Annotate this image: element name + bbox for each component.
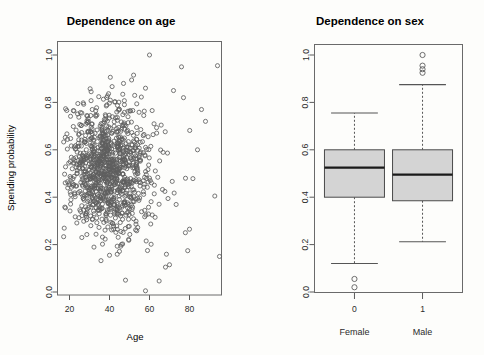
box-plot-sex: Dependence on sex 0.00.20.40.60.81.0 01 … (242, 0, 484, 355)
y-tick-label: 0.6 (44, 144, 54, 156)
scatter-point (159, 123, 163, 127)
scatter-point (174, 202, 178, 206)
scatter-point (147, 156, 151, 160)
boxes-sex (324, 52, 452, 289)
scatter-point (94, 232, 98, 236)
scatter-point (215, 64, 219, 68)
group-label: Male (413, 327, 433, 337)
scatter-point (135, 102, 139, 106)
scatter-point (143, 289, 147, 293)
scatter-point (62, 226, 66, 230)
x-tick-label: 80 (185, 304, 195, 314)
scatter-point (76, 101, 80, 105)
scatter-point (161, 150, 165, 154)
scatter-point (107, 253, 111, 257)
scatter-point (152, 192, 156, 196)
scatter-point (100, 242, 104, 246)
scatter-point (164, 252, 168, 256)
box-male (393, 52, 453, 241)
panel-dependence-on-sex: Dependence on sex 0.00.20.40.60.81.0 01 … (242, 0, 484, 355)
scatter-point (153, 169, 157, 173)
x-tick-label: 1 (420, 304, 425, 314)
scatter-point (85, 232, 89, 236)
scatter-point (74, 128, 78, 132)
scatter-point (89, 224, 93, 228)
x-tick-label: 60 (145, 304, 155, 314)
y-tick-label: 0.8 (301, 96, 311, 108)
scatter-point (183, 176, 187, 180)
scatter-point (151, 133, 155, 137)
scatter-point (143, 86, 147, 90)
scatter-point (117, 249, 121, 253)
scatter-point (147, 176, 151, 180)
group-labels-sex: FemaleMale (339, 327, 432, 337)
scatter-point (121, 81, 125, 85)
scatter-point (97, 225, 101, 229)
scatter-point (122, 103, 126, 107)
y-tick-label: 0.4 (301, 191, 311, 203)
scatter-point (149, 242, 153, 246)
scatter-point (92, 209, 96, 213)
scatter-point (63, 165, 67, 169)
scatter-point (163, 265, 167, 269)
scatter-point (126, 115, 130, 119)
y-tick-label: 0.0 (44, 286, 54, 298)
scatter-point (62, 140, 66, 144)
scatter-point (121, 92, 125, 96)
scatter-point (199, 107, 203, 111)
scatter-point (147, 163, 151, 167)
scatter-point (213, 194, 217, 198)
scatter-point (122, 99, 126, 103)
outlier-point (420, 70, 425, 75)
y-axis-ticks-age: 0.00.20.40.60.81.0 (44, 49, 58, 298)
scatter-point (188, 128, 192, 132)
scatter-point (71, 124, 75, 128)
scatter-point (62, 235, 66, 239)
panel-title-sex: Dependence on sex (316, 15, 425, 27)
panel-title-age: Dependence on age (67, 15, 176, 27)
scatter-point (108, 213, 112, 217)
scatter-point (139, 95, 143, 99)
scatter-point (68, 114, 72, 118)
scatter-point (181, 96, 185, 100)
y-tick-label: 0.0 (301, 286, 311, 298)
figure-canvas: Dependence on age Spending probability A… (0, 0, 484, 355)
scatter-point (157, 279, 161, 283)
scatter-point (147, 53, 151, 57)
scatter-point (69, 198, 73, 202)
scatter-point (183, 231, 187, 235)
scatter-point (165, 151, 169, 155)
scatter-point (191, 177, 195, 181)
scatter-point (128, 232, 132, 236)
scatter-point (68, 209, 72, 213)
scatter-point (92, 245, 96, 249)
scatter-point (73, 215, 77, 219)
y-tick-label: 0.2 (44, 238, 54, 250)
scatter-point (171, 89, 175, 93)
scatter-point (133, 93, 137, 97)
scatter-point (155, 126, 159, 130)
scatter-point (142, 109, 146, 113)
outlier-point (420, 52, 425, 57)
scatter-point (149, 222, 153, 226)
x-axis-ticks-sex: 01 (352, 293, 425, 315)
box-iqr (324, 150, 384, 197)
scatter-point (63, 172, 67, 176)
scatter-point (145, 248, 149, 252)
scatter-point (112, 124, 116, 128)
y-tick-label: 0.4 (44, 191, 54, 203)
scatter-point (166, 196, 170, 200)
scatter-point (159, 148, 163, 152)
scatter-point (157, 202, 161, 206)
y-tick-label: 0.6 (301, 144, 311, 156)
y-axis-ticks-sex: 0.00.20.40.60.81.0 (301, 49, 315, 298)
scatter-point (84, 148, 88, 152)
scatter-point (146, 135, 150, 139)
scatter-point (103, 228, 107, 232)
scatter-point (80, 204, 84, 208)
scatter-point (69, 202, 73, 206)
scatter-point (186, 249, 190, 253)
scatter-point (123, 278, 127, 282)
scatter-point (132, 73, 136, 77)
box-female (324, 113, 384, 290)
